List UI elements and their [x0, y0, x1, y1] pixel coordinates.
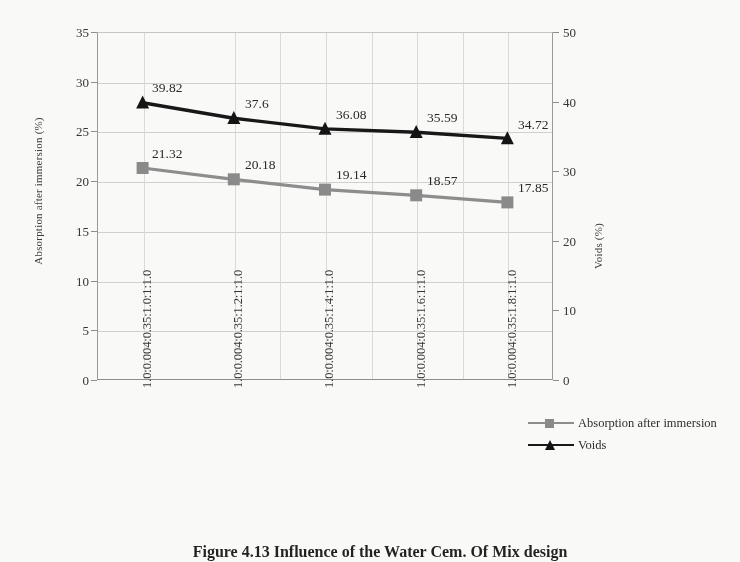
gridline-vertical [463, 33, 464, 379]
gridline-vertical [372, 33, 373, 379]
tick-left [91, 380, 97, 381]
x-tick-label: 1.0:0.004:0.35:1.4:1:1.0 [322, 238, 337, 388]
data-label-absorption: 17.85 [518, 180, 548, 196]
y-tick-label-left: 5 [83, 324, 90, 337]
legend-label-absorption: Absorption after immersion [574, 416, 717, 431]
tick-left [91, 281, 97, 282]
gridline-horizontal [98, 232, 552, 233]
data-label-voids: 35.59 [427, 110, 457, 126]
y-tick-label-right: 30 [563, 165, 576, 178]
legend-item-voids[interactable]: Voids [528, 434, 740, 456]
tick-right [553, 310, 559, 311]
y-axis-left-ticks: 35 30 25 20 15 10 5 0 [55, 32, 89, 380]
y-tick-label-right: 40 [563, 96, 576, 109]
gridline-horizontal [98, 182, 552, 183]
y-tick-label-left: 30 [76, 76, 89, 89]
data-label-absorption: 20.18 [245, 157, 275, 173]
figure-page: 35 30 25 20 15 10 5 0 50 40 30 20 10 0 A… [0, 0, 740, 562]
legend-label-voids: Voids [574, 438, 606, 453]
y-tick-label-right: 50 [563, 26, 576, 39]
y-tick-label-left: 0 [83, 374, 90, 387]
data-label-absorption: 19.14 [336, 167, 366, 183]
y-tick-label-right: 0 [563, 374, 570, 387]
data-label-voids: 37.6 [245, 96, 269, 112]
legend-swatch-voids [528, 438, 574, 452]
gridline-horizontal [98, 132, 552, 133]
x-tick-label: 1.0:0.004:0.35:1.6:1:1.0 [414, 238, 429, 388]
y-axis-left-title: Absorption after immersion (%) [32, 61, 44, 321]
triangle-marker-icon [545, 440, 555, 450]
tick-left [91, 330, 97, 331]
y-tick-label-left: 20 [76, 175, 89, 188]
tick-right [553, 32, 559, 33]
data-label-voids: 34.72 [518, 117, 548, 133]
data-label-voids: 39.82 [152, 80, 182, 96]
x-tick-label: 1.0:0.004:0.35:1.8:1:1.0 [505, 238, 520, 388]
data-label-voids: 36.08 [336, 107, 366, 123]
y-axis-right-title: Voids (%) [592, 166, 604, 326]
tick-left [91, 231, 97, 232]
tick-left [91, 82, 97, 83]
y-tick-label-left: 25 [76, 125, 89, 138]
data-label-absorption: 18.57 [427, 173, 457, 189]
figure-caption: Figure 4.13 Influence of the Water Cem. … [70, 543, 690, 561]
legend: Absorption after immersion Voids [528, 412, 740, 456]
y-tick-label-left: 35 [76, 26, 89, 39]
x-tick-label: 1.0:0.004:0.35:1.2:1:1.0 [231, 238, 246, 388]
data-label-absorption: 21.32 [152, 146, 182, 162]
gridline-vertical [280, 33, 281, 379]
y-tick-label-left: 10 [76, 275, 89, 288]
tick-left [91, 131, 97, 132]
y-tick-label-right: 10 [563, 304, 576, 317]
tick-right [553, 171, 559, 172]
tick-left [91, 32, 97, 33]
y-tick-label-left: 15 [76, 225, 89, 238]
x-tick-label: 1.0:0.004:0.35:1.0:1:1.0 [140, 238, 155, 388]
legend-swatch-absorption [528, 416, 574, 430]
tick-left [91, 181, 97, 182]
legend-item-absorption[interactable]: Absorption after immersion [528, 412, 740, 434]
y-tick-label-right: 20 [563, 235, 576, 248]
tick-right [553, 241, 559, 242]
tick-right [553, 102, 559, 103]
tick-right [553, 380, 559, 381]
square-marker-icon [545, 419, 554, 428]
